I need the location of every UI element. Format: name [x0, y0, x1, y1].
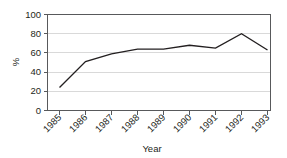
plot-background [47, 14, 271, 110]
y-tick-label-20: 20 [30, 85, 41, 96]
x-tick-label-1987: 1987 [93, 112, 116, 135]
x-tick-label-1986: 1986 [67, 112, 90, 135]
x-tick-label-1992: 1992 [223, 112, 246, 135]
x-tick-label-1989: 1989 [145, 112, 168, 135]
y-tick-label-100: 100 [25, 9, 41, 20]
chart-canvas: 100 80 60 40 20 0 % 1985 1986 1987 1988 [0, 0, 287, 158]
x-tick-label-1991: 1991 [197, 112, 220, 135]
y-tickmarks [44, 15, 48, 111]
line-chart-figure: 100 80 60 40 20 0 % 1985 1986 1987 1988 [0, 0, 287, 158]
y-tick-label-80: 80 [30, 28, 41, 39]
x-axis-title: Year [142, 143, 161, 154]
y-tick-label-60: 60 [30, 47, 41, 58]
y-tick-label-40: 40 [30, 66, 41, 77]
x-tick-label-1985: 1985 [41, 112, 64, 135]
y-tick-labels: 100 80 60 40 20 0 [25, 9, 41, 116]
x-tick-label-1988: 1988 [119, 112, 142, 135]
x-tick-labels: 1985 1986 1987 1988 1989 1990 1991 1992 … [41, 112, 272, 135]
y-axis-title: % [10, 57, 21, 66]
x-tick-label-1990: 1990 [171, 112, 194, 135]
y-tick-label-0: 0 [36, 105, 41, 116]
x-tick-label-1993: 1993 [249, 112, 272, 135]
